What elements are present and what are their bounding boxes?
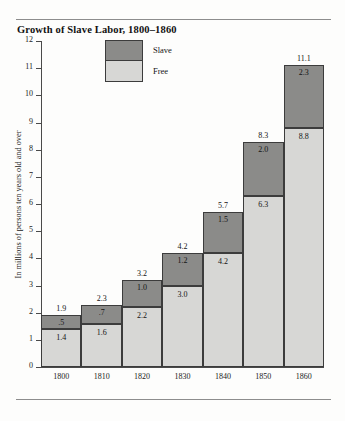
bar-label-slave: 1.0 (123, 283, 161, 292)
bar-label-free: 8.8 (285, 132, 323, 141)
bar-group[interactable]: 4.21.55.7 (203, 212, 243, 367)
bar-label-free: 2.2 (123, 311, 161, 320)
top-rule (16, 19, 331, 20)
bar-segment-free[interactable]: 1.6 (81, 324, 121, 367)
y-tick: 10 (36, 95, 41, 96)
y-tick: 5 (36, 231, 41, 232)
legend-item-slave: Slave (105, 40, 200, 61)
bar-label-total: 8.3 (243, 131, 283, 140)
x-tick-label: 1860 (284, 372, 324, 381)
bar-group[interactable]: 6.32.08.3 (243, 142, 283, 367)
bar-label-slave: 2.3 (285, 68, 323, 77)
y-tick-label: 10 (25, 89, 33, 98)
bar-label-total: 2.3 (81, 294, 121, 303)
chart-title: Growth of Slave Labor, 1800–1860 (17, 24, 177, 35)
legend-label-free: Free (153, 66, 168, 76)
bar-group[interactable]: 1.4.51.9 (41, 315, 81, 367)
bar-label-slave: 2.0 (244, 145, 282, 154)
y-tick-label: 3 (29, 280, 33, 289)
x-tick-label: 1840 (203, 372, 243, 381)
bar-label-free: 1.6 (82, 328, 120, 337)
bar-segment-slave[interactable]: 1.2 (162, 253, 202, 286)
bar-group[interactable]: 2.21.03.2 (122, 280, 162, 367)
y-tick: 0 (36, 367, 41, 368)
bar-segment-free[interactable]: 8.8 (284, 128, 324, 367)
bar-group[interactable]: 3.01.24.2 (162, 253, 202, 367)
bar-segment-free[interactable]: 3.0 (162, 286, 202, 368)
y-tick-label: 0 (29, 361, 33, 370)
x-tick-label: 1800 (41, 372, 81, 381)
bar-group[interactable]: 1.6.72.3 (81, 305, 121, 367)
bar-segment-slave[interactable]: 1.0 (122, 280, 162, 307)
y-tick: 11 (36, 68, 41, 69)
bar-segment-slave[interactable]: 2.3 (284, 65, 324, 127)
bar-segment-slave[interactable]: 2.0 (243, 142, 283, 196)
bar-group[interactable]: 8.82.311.1 (284, 65, 324, 367)
bottom-rule (16, 399, 331, 400)
y-tick: 12 (36, 41, 41, 42)
bar-label-free: 3.0 (163, 290, 201, 299)
y-tick: 7 (36, 177, 41, 178)
bar-segment-free[interactable]: 1.4 (41, 329, 81, 367)
bar-label-free: 4.2 (204, 257, 242, 266)
y-tick-label: 9 (29, 117, 33, 126)
y-tick-label: 5 (29, 225, 33, 234)
bar-segment-slave[interactable]: 1.5 (203, 212, 243, 253)
y-tick-label: 2 (29, 307, 33, 316)
bar-label-total: 1.9 (41, 304, 81, 313)
y-axis-title: In millions of persons ten years old and… (12, 41, 25, 368)
y-tick-label: 12 (25, 35, 33, 44)
y-tick: 4 (36, 258, 41, 259)
bar-label-free: 6.3 (244, 200, 282, 209)
y-tick-label: 8 (29, 144, 33, 153)
bar-label-slave: 1.5 (204, 215, 242, 224)
bar-label-slave: .7 (82, 308, 120, 317)
bar-segment-free[interactable]: 6.3 (243, 196, 283, 367)
legend-swatch-slave-icon (105, 40, 143, 61)
y-tick: 3 (36, 286, 41, 287)
bar-segment-free[interactable]: 2.2 (122, 307, 162, 367)
x-tick-label: 1830 (162, 372, 202, 381)
y-tick-label: 6 (29, 198, 33, 207)
bar-label-slave: 1.2 (163, 256, 201, 265)
legend-swatch-free-icon (105, 61, 143, 82)
y-tick-label: 7 (29, 171, 33, 180)
y-tick: 9 (36, 123, 41, 124)
bar-segment-slave[interactable]: .7 (81, 305, 121, 324)
x-tick-label: 1820 (122, 372, 162, 381)
bar-label-free: 1.4 (42, 333, 80, 342)
plot-area: 0123456789101112 1.4.51.91.6.72.32.21.03… (41, 41, 324, 368)
bar-label-total: 4.2 (162, 242, 202, 251)
bar-label-total: 5.7 (203, 201, 243, 210)
bar-label-slave: .5 (42, 318, 80, 327)
x-tick-label: 1850 (243, 372, 283, 381)
legend: Slave Free (105, 40, 200, 82)
y-tick: 6 (36, 204, 41, 205)
bar-label-total: 3.2 (122, 269, 162, 278)
y-tick-label: 11 (25, 62, 33, 71)
bar-label-total: 11.1 (284, 54, 324, 63)
y-tick: 8 (36, 150, 41, 151)
x-axis-line (41, 367, 324, 368)
x-tick-label: 1810 (81, 372, 121, 381)
bar-segment-free[interactable]: 4.2 (203, 253, 243, 367)
y-tick-label: 1 (29, 334, 33, 343)
legend-label-slave: Slave (153, 45, 172, 55)
legend-item-free: Free (105, 61, 200, 82)
figure: Growth of Slave Labor, 1800–1860 In mill… (0, 0, 345, 421)
y-tick-label: 4 (29, 252, 33, 261)
bar-segment-slave[interactable]: .5 (41, 315, 81, 329)
